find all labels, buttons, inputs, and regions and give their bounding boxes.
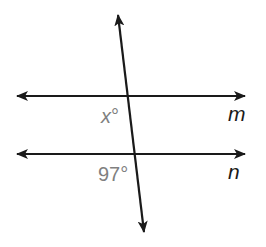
angle-97-label: 97° bbox=[98, 164, 128, 184]
line-m-label: m bbox=[228, 103, 246, 124]
diagram-svg bbox=[0, 0, 266, 247]
line-n-label: n bbox=[228, 161, 240, 182]
transversal-line bbox=[118, 15, 144, 232]
angle-x-label: x° bbox=[101, 106, 119, 126]
angle-x-variable: x bbox=[101, 105, 111, 127]
angle-x-degree: ° bbox=[111, 105, 119, 127]
diagram-canvas: m n x° 97° bbox=[0, 0, 266, 247]
